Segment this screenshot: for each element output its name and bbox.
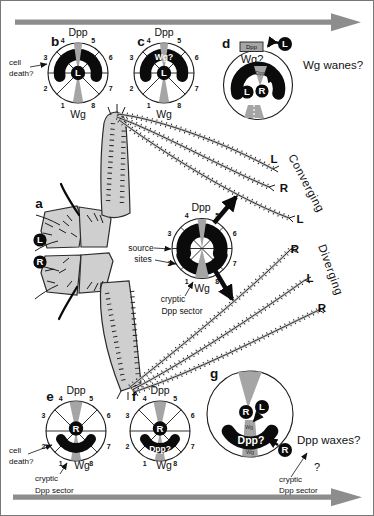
sector-number: 6	[191, 412, 195, 419]
dpp-label: Dpp	[68, 26, 87, 38]
wg-label: Wg	[194, 282, 210, 294]
cell-death-label: cell	[9, 58, 21, 67]
sector-number: 1	[61, 102, 65, 109]
sector-number: 3	[43, 54, 47, 61]
panel-letter: b	[51, 34, 59, 49]
cell-death-label: death?	[9, 457, 34, 466]
cryptic-dpp-label: cryptic	[161, 294, 186, 304]
cryptic-dpp-label: Dpp sector	[161, 306, 202, 316]
sector-number: 7	[107, 443, 111, 450]
sector-number: 6	[195, 54, 199, 61]
leg-tip-label: R	[291, 243, 300, 255]
wg-label: Wg	[70, 108, 86, 120]
sector-number: 8	[173, 460, 177, 467]
cryptic-dpp-label: cryptic	[279, 475, 302, 484]
leg-tip-label: L	[270, 153, 277, 165]
figure-svg: L 1 2 3 4 5 6 7 8 b Dpp Wg cell death? W…	[1, 1, 373, 515]
center-badge-letter: R	[243, 406, 250, 417]
sector-number: 2	[129, 85, 133, 92]
leg-upper-1-line	[117, 114, 273, 169]
panel-d: Dpp Dpp Wg? L R L d	[222, 36, 293, 120]
cryptic-dpp-label: Dpp sector	[35, 486, 74, 495]
sector-number: 2	[125, 443, 129, 450]
to-converging-arrow	[214, 197, 236, 223]
wg-question-label: Wg?	[241, 53, 264, 65]
incoming-right-badge-letter: R	[282, 444, 289, 455]
sector-number: 7	[233, 260, 237, 267]
left-leg-badge-letter: L	[37, 234, 43, 245]
cryptic-dpp-label: Dpp sector	[279, 486, 318, 495]
cell-death-pointer	[30, 64, 47, 67]
dpp-question-label: Dpp?	[238, 434, 265, 446]
wg-question-label: Wg?	[155, 52, 173, 62]
center-badge-letter: R	[157, 423, 164, 434]
source-pointer	[154, 248, 171, 249]
spines	[132, 280, 305, 390]
center-badge-letter: L	[161, 67, 167, 78]
sector-number: 5	[89, 395, 93, 402]
figure-canvas: L 1 2 3 4 5 6 7 8 b Dpp Wg cell death? W…	[0, 0, 374, 516]
dpp-question-label: Dpp?	[149, 444, 171, 454]
sector-number: 1	[59, 460, 63, 467]
top-time-arrow	[15, 13, 361, 31]
sector-number: 4	[143, 395, 147, 402]
sector-number: 2	[167, 260, 171, 267]
center-badge-letter: R	[73, 423, 80, 434]
wg-label: Wg	[74, 459, 90, 471]
dpp-label: Dpp	[191, 201, 210, 213]
wg-label: Wg	[156, 108, 172, 120]
sector-number: 1	[147, 102, 151, 109]
sector-number: 6	[107, 412, 111, 419]
wg-upper-label: Wg	[245, 424, 253, 430]
sector-number: 7	[191, 443, 195, 450]
question-mark: ?	[314, 461, 320, 473]
sector-number: 5	[177, 37, 181, 44]
right-leg-badge-letter: R	[37, 256, 44, 267]
sector-number: 4	[147, 37, 151, 44]
diverging-caption: Diverging	[316, 243, 345, 297]
source-pointer	[155, 260, 176, 264]
panel-g: Wg Dpp? Wg R L R g	[207, 366, 293, 457]
wg-wanes-caption: Wg wanes?	[303, 59, 363, 71]
sector-number: 3	[125, 412, 129, 419]
sector-number: 6	[109, 54, 113, 61]
sector-number: 5	[91, 37, 95, 44]
sector-number: 8	[177, 102, 181, 109]
sector-number: 6	[233, 230, 237, 237]
dpp-label: Dpp	[150, 384, 169, 396]
source-sites-label: sites	[134, 254, 151, 264]
source-sites-label: source	[128, 243, 154, 253]
sector-number: 3	[167, 230, 171, 237]
panel-letter: g	[210, 366, 218, 381]
cell-death-label: cell	[9, 446, 21, 455]
left-badge-letter: L	[244, 86, 250, 97]
leg-upper-1	[117, 114, 273, 169]
wg-lower-label: Wg	[246, 449, 254, 455]
cryptic-to-caption-arrow	[291, 453, 307, 477]
panel-f: Dpp? R 1 2 3 4 5 6 7 8 f Dpp Wg	[125, 384, 194, 471]
leg-tip-label: R	[318, 302, 327, 314]
sector-number: 4	[185, 212, 189, 219]
dpp-label: Dpp	[154, 26, 173, 38]
incoming-left-badge-letter: L	[259, 401, 265, 412]
leg-tip-label: L	[306, 272, 313, 284]
center-badge-letter: L	[75, 67, 81, 78]
converging-caption: Converging	[286, 152, 327, 214]
dpp-label: Dpp	[66, 384, 85, 396]
panel-letter: e	[46, 389, 54, 404]
sector-number: 3	[41, 412, 45, 419]
panel-letter: c	[137, 34, 145, 49]
cryptic-dpp-label: cryptic	[35, 474, 58, 483]
leg-tip-label: L	[296, 213, 303, 225]
svg-text:Converging: Converging	[286, 152, 327, 214]
panel-e: R 1 2 3 4 5 6 7 8 e Dpp Wg	[41, 384, 110, 471]
cell-death-pointer	[28, 445, 52, 454]
dpp-box-label: Dpp	[246, 44, 258, 50]
sector-number: 4	[59, 395, 63, 402]
spines	[117, 114, 273, 169]
leg-tip-label: R	[280, 182, 289, 194]
sector-number: 7	[195, 85, 199, 92]
sector-number: 1	[185, 278, 189, 285]
ejected-badge-letter: L	[282, 38, 288, 49]
sector-number: 3	[129, 54, 133, 61]
